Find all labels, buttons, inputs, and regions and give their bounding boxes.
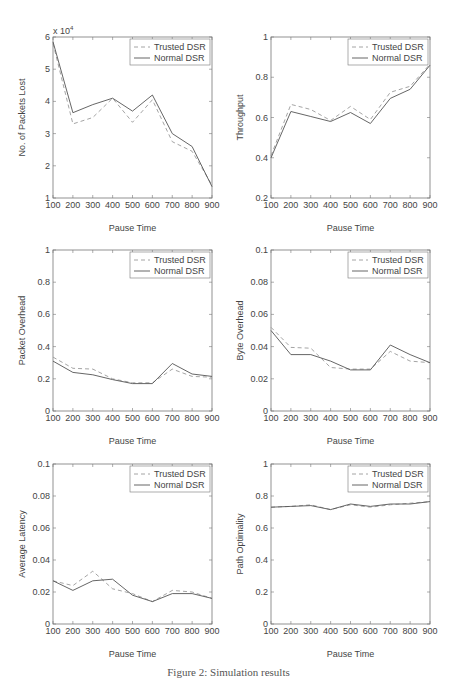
chart-path-optimality: 10020030040050060070080090000.20.40.60.8… [0,0,457,679]
y-tick-label: 1 [263,459,268,469]
y-tick-label: 0.6 [255,523,268,533]
x-tick-label: 600 [363,626,378,636]
y-tick-label: 0.4 [255,555,268,565]
svg-text:Normal DSR: Normal DSR [372,480,423,490]
y-tick-label: 0.2 [255,587,268,597]
legend: Trusted DSRNormal DSR [348,466,428,492]
x-tick-label: 200 [283,626,298,636]
normal-dsr-line [271,502,430,510]
trusted-dsr-line [271,502,430,510]
x-tick-label: 400 [323,626,338,636]
x-axis-label: Pause Time [327,649,375,659]
x-tick-label: 300 [303,626,318,636]
y-tick-label: 0.8 [255,491,268,501]
x-tick-label: 800 [403,626,418,636]
y-tick-label: 0 [263,619,268,629]
x-tick-label: 700 [383,626,398,636]
svg-text:Trusted DSR: Trusted DSR [372,469,424,479]
x-tick-label: 500 [343,626,358,636]
figure-caption: Figure 2: Simulation results [0,666,457,678]
y-axis-label: Path Optimality [235,513,245,575]
x-tick-label: 900 [422,626,437,636]
